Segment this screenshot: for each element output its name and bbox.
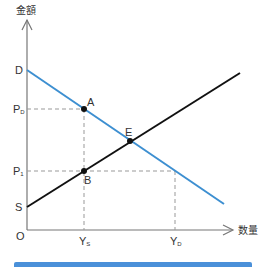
y-tick-p1: P1 — [13, 165, 24, 177]
y-tick-d: D — [15, 64, 23, 76]
y-tick-pd: PD — [13, 103, 25, 115]
x-tick-yd: YD — [170, 235, 182, 247]
x-axis-label: 数量 — [238, 224, 258, 236]
x-tick-ys: YS — [79, 235, 90, 247]
y-axis-label: 金額 — [16, 4, 36, 16]
point-e-label: E — [125, 126, 132, 138]
point-e — [127, 138, 133, 144]
y-tick-s: S — [15, 201, 22, 213]
accent-bar — [14, 262, 252, 267]
point-b-label: B — [84, 174, 91, 186]
origin-label: O — [16, 230, 25, 242]
supply-line — [27, 73, 240, 207]
point-a-label: A — [87, 96, 95, 108]
